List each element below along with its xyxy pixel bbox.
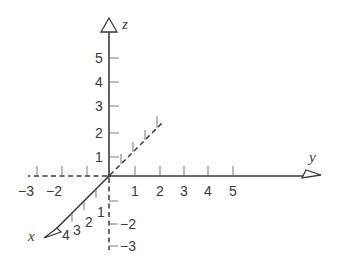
y-axis-label: y — [307, 149, 316, 165]
z-tick-label-1: 1 — [95, 149, 103, 165]
coordinate-axes-diagram: z 1 2 3 4 5 −2 −3 y 1 2 3 4 5 — [0, 0, 340, 265]
y-tick-label-neg-2: −2 — [46, 183, 62, 199]
z-axis-label: z — [121, 16, 128, 32]
x-axis-negative-dashed — [110, 123, 162, 175]
x-axis-arrowhead-icon — [44, 228, 61, 238]
x-tick-label-2: 2 — [85, 214, 93, 230]
origin-point — [107, 174, 110, 177]
z-axis-arrowhead-icon — [101, 18, 117, 32]
y-tick-label-1: 1 — [131, 183, 139, 199]
y-tick-label-4: 4 — [204, 183, 212, 199]
z-tick-label-neg-3: −3 — [120, 238, 136, 254]
z-tick-label-5: 5 — [95, 50, 103, 66]
y-tick-label-3: 3 — [180, 183, 188, 199]
x-axis-label: x — [27, 228, 35, 244]
y-axis: y 1 2 3 4 5 −3 −2 — [18, 149, 321, 199]
z-tick-label-4: 4 — [95, 74, 103, 90]
y-tick-label-neg-3: −3 — [18, 183, 34, 199]
y-tick-label-5: 5 — [229, 183, 237, 199]
z-tick-label-3: 3 — [95, 98, 103, 114]
x-tick-label-4: 4 — [62, 227, 70, 243]
x-tick-label-1: 1 — [97, 204, 105, 220]
z-tick-label-2: 2 — [95, 125, 103, 141]
y-axis-arrowhead-icon — [302, 170, 321, 178]
y-tick-label-2: 2 — [156, 183, 164, 199]
x-tick-label-3: 3 — [73, 222, 81, 238]
z-tick-label-neg-2: −2 — [120, 216, 136, 232]
